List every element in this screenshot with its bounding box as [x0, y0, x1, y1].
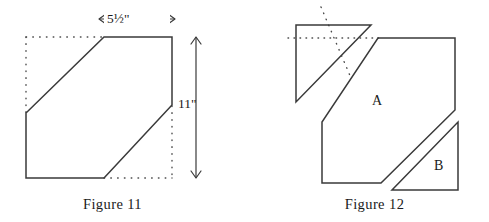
figure-12-caption: Figure 12 [262, 196, 487, 213]
piece-label-a: A [372, 93, 382, 109]
triangle-piece-b [392, 122, 458, 190]
figures-canvas [0, 0, 489, 222]
figure-11-group [26, 11, 201, 178]
width-dimension-label: 5½" [107, 11, 129, 27]
figure-page: 5½" 11" A B Figure 11 Figure 12 [0, 0, 489, 222]
height-dimension-label: 11" [178, 96, 197, 112]
hexagon-outline-fig11 [26, 37, 172, 178]
dotted-construction-diagonal [321, 7, 351, 78]
figure-11-caption: Figure 11 [0, 196, 225, 213]
triangle-piece-detached-top [296, 25, 371, 102]
piece-label-b: B [434, 158, 443, 174]
